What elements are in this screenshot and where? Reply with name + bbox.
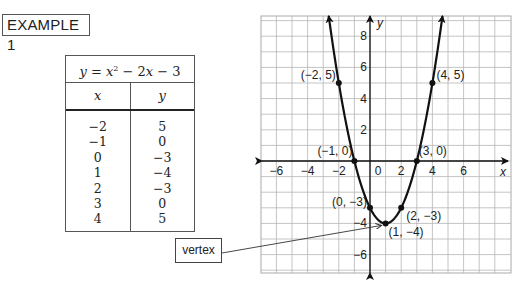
vertex-callout: vertex xyxy=(175,238,222,263)
labels: −6−4−202468642−4−6xy(−2, 5)(−1, 0)(0, −3… xyxy=(222,16,507,262)
data-point xyxy=(398,205,404,211)
point-label: (3, 0) xyxy=(419,144,447,158)
y-tick-label: 2 xyxy=(360,123,367,137)
x-tick-label: −4 xyxy=(301,164,315,178)
point-label: (0, −3) xyxy=(332,195,367,209)
data-point xyxy=(351,158,357,164)
grid xyxy=(261,16,511,273)
parabola-graph: −6−4−202468642−4−6xy(−2, 5)(−1, 0)(0, −3… xyxy=(0,0,530,286)
x-tick-label: 0 xyxy=(375,164,382,178)
y-tick-label: 4 xyxy=(360,92,367,106)
x-tick-label: −2 xyxy=(332,164,346,178)
y-tick-label: −6 xyxy=(353,248,367,262)
y-tick-label: 6 xyxy=(360,60,367,74)
data-point xyxy=(414,158,420,164)
point-label: (4, 5) xyxy=(436,68,464,82)
y-axis-label: y xyxy=(376,16,384,30)
data-point xyxy=(367,205,373,211)
axes xyxy=(262,16,508,273)
data-point xyxy=(336,80,342,86)
y-tick-label: 8 xyxy=(360,29,367,43)
point-label: (−2, 5) xyxy=(301,68,336,82)
point-label: (−1, 0) xyxy=(317,144,352,158)
x-tick-label: −6 xyxy=(270,164,284,178)
x-tick-label: 4 xyxy=(429,164,436,178)
x-axis-label: x xyxy=(499,165,507,179)
data-point xyxy=(429,80,435,86)
x-tick-label: 2 xyxy=(398,164,405,178)
x-tick-label: 6 xyxy=(460,164,467,178)
point-label: (2, −3) xyxy=(406,209,441,223)
point-label: (1, −4) xyxy=(389,225,424,239)
